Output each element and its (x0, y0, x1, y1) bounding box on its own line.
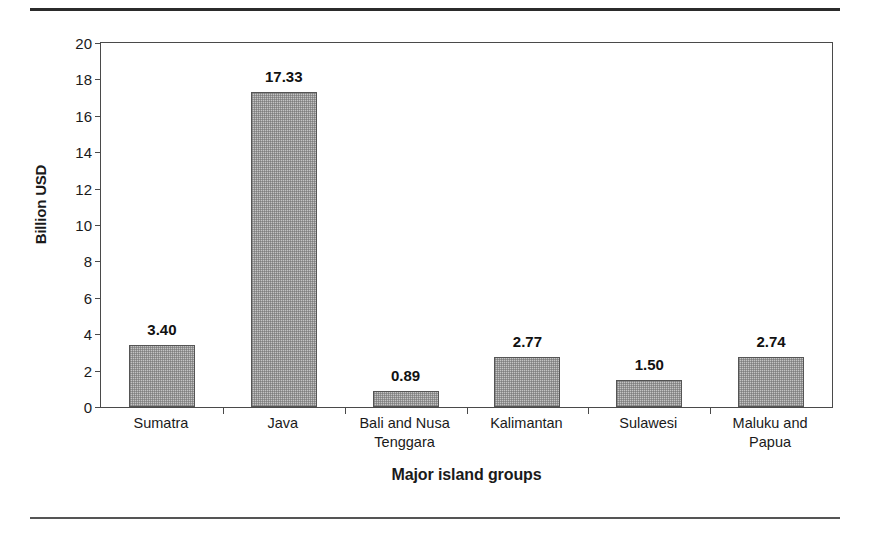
bar (616, 380, 682, 407)
bar (251, 92, 317, 407)
y-axis-tick-label: 2 (84, 362, 92, 379)
y-axis-tick (95, 79, 101, 80)
y-axis-tick (95, 189, 101, 190)
bar-value-label: 3.40 (147, 321, 176, 338)
x-axis-tick-label: Kalimantan (490, 414, 563, 433)
bar-value-label: 2.77 (513, 333, 542, 350)
bar-value-label: 1.50 (635, 356, 664, 373)
y-axis-tick (95, 371, 101, 372)
x-axis-tick-label: Java (267, 414, 298, 433)
x-axis-tick (588, 407, 589, 414)
y-axis-tick-label: 8 (84, 253, 92, 270)
x-axis-tick (710, 407, 711, 414)
plot-area: 02468101214161820 3.4017.330.892.771.502… (100, 42, 833, 408)
y-axis-tick-label: 18 (75, 71, 92, 88)
bar-value-label: 17.33 (265, 68, 303, 85)
y-axis-tick-label: 6 (84, 289, 92, 306)
x-axis-tick (223, 407, 224, 414)
x-axis-title: Major island groups (100, 466, 833, 484)
y-axis-tick-label: 14 (75, 144, 92, 161)
x-axis-tick-label: Sumatra (134, 414, 189, 433)
y-axis-tick-label: 0 (84, 399, 92, 416)
y-axis-tick (95, 261, 101, 262)
bar (738, 357, 804, 407)
y-axis-tick (95, 43, 101, 44)
x-axis-tick (345, 407, 346, 414)
x-axis-tick (467, 407, 468, 414)
y-axis-tick (95, 298, 101, 299)
y-axis-title: Billion USD (32, 135, 49, 275)
y-axis-tick-label: 16 (75, 107, 92, 124)
bar-value-label: 2.74 (756, 333, 785, 350)
bar (129, 345, 195, 407)
y-axis-tick-label: 10 (75, 217, 92, 234)
bar (494, 357, 560, 407)
x-axis-tick-label: Maluku and Papua (721, 414, 820, 452)
y-axis-tick-label: 4 (84, 326, 92, 343)
y-axis-tick (95, 334, 101, 335)
y-axis-tick (95, 407, 101, 408)
x-axis-tick-label: Sulawesi (619, 414, 677, 433)
bar (373, 391, 439, 407)
y-axis-tick-label: 20 (75, 35, 92, 52)
bar-chart-figure: Billion USD 02468101214161820 3.4017.330… (0, 0, 869, 533)
bar-value-label: 0.89 (391, 367, 420, 384)
y-axis-tick (95, 225, 101, 226)
y-axis-tick (95, 116, 101, 117)
x-axis-tick-label: Bali and Nusa Tenggara (359, 414, 449, 452)
y-axis-tick-label: 12 (75, 180, 92, 197)
y-axis-tick (95, 152, 101, 153)
